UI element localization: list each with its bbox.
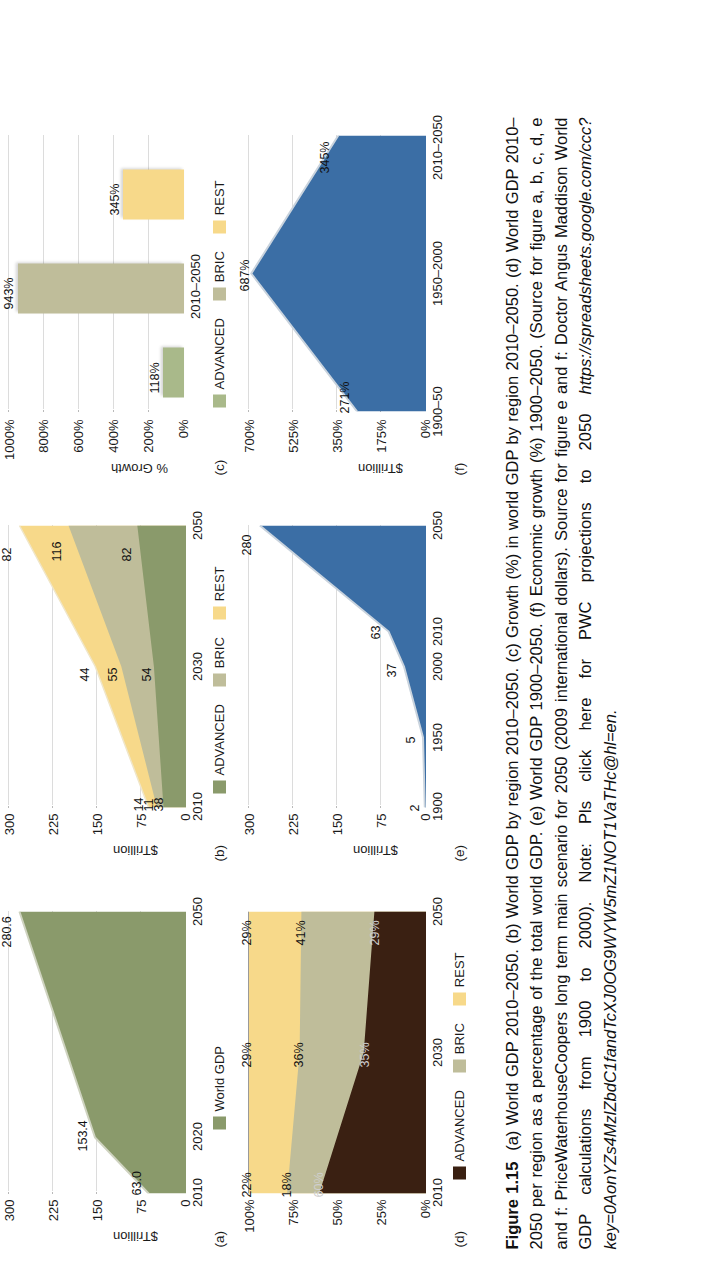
panel-e-xtick-2010: 2010 — [430, 608, 445, 654]
panel-b-label-advanced-2050: 82 — [120, 547, 134, 561]
panel-c-bar-rest — [123, 169, 184, 219]
panel-f-xtick-2010-2050: 2010–2050 — [430, 109, 445, 185]
panel-e-plot: 2 5 37 63 280 — [248, 525, 426, 807]
panel-b-xtick-2030: 2030 — [190, 643, 205, 689]
panel-e: $Trillion 300 225 150 75 0 2 5 37 63 280 — [248, 511, 478, 863]
legend-swatch-bric — [213, 673, 226, 686]
panel-d-id: (d) — [452, 1231, 467, 1248]
panel-e-id: (e) — [452, 845, 467, 862]
legend-swatch-rest-d — [453, 992, 466, 1005]
panel-c-xtick: 2010–2050 — [188, 231, 203, 341]
legend-label-advanced-c: ADVANCED — [212, 318, 227, 389]
panel-d-ytick-50: 50% — [330, 1199, 345, 1249]
panel-f-area — [248, 135, 426, 411]
panel-f-id: (f) — [452, 462, 467, 475]
panel-c-ytick-0: 0% — [176, 419, 191, 467]
panel-c-label-rest: 345% — [108, 183, 122, 215]
panel-b-id: (b) — [212, 845, 227, 862]
figure-1-15: $Trillion 300 225 150 75 0 63.0 153.4 28… — [8, 119, 478, 1249]
panel-f-xtick-1950-2000: 1950–2000 — [430, 235, 445, 311]
panel-c-ytick-400: 400% — [106, 419, 121, 467]
panel-c-legend: ADVANCED BRIC REST — [212, 167, 227, 407]
panel-d-label-bric-2030: 36% — [292, 1042, 306, 1067]
panel-a-ytick-75: 75 — [134, 1199, 149, 1233]
panel-a-plot: 63.0 153.4 280.6 — [8, 911, 186, 1193]
panel-b-legend: ADVANCED BRIC REST — [212, 553, 227, 793]
panel-b-label-rest-2050: 82 — [0, 547, 14, 561]
panel-b-label-bric-2030: 55 — [106, 667, 120, 681]
panel-a-xtick-2010: 2010 — [190, 1169, 205, 1215]
panel-d-label-rest-2030: 29% — [240, 1042, 254, 1067]
legend-label-bric: BRIC — [212, 637, 227, 668]
panel-f-ytick-350: 350% — [330, 419, 345, 471]
panel-c: % Growth 1000% 800% 600% 400% 200% 0% 11… — [8, 119, 236, 477]
panel-e-label-1900: 2 — [408, 804, 422, 811]
panel-c-ytick-600: 600% — [71, 419, 86, 467]
panel-b-plot: 14 11 38 44 55 54 82 116 82 — [8, 525, 186, 807]
panel-d-label-bric-2050: 41% — [294, 920, 308, 945]
panel-f-xtick-1900-50: 1900–50 — [430, 373, 445, 449]
panel-f-ytick-525: 525% — [286, 419, 301, 471]
panel-b-stacked-area — [8, 525, 186, 807]
panel-e-xtick-1950: 1950 — [430, 714, 445, 760]
panel-d-xtick-2050: 2050 — [430, 888, 445, 934]
book-page: $Trillion 300 225 150 75 0 63.0 153.4 28… — [0, 0, 718, 1271]
panel-b-ytick-75: 75 — [134, 813, 149, 847]
panel-d-xtick-2010: 2010 — [430, 1169, 445, 1215]
panel-d-ytick-100: 100% — [242, 1199, 257, 1249]
panel-a-id: (a) — [212, 1231, 227, 1248]
panel-b-label-advanced-2010: 38 — [152, 797, 166, 811]
legend-label-rest-c: REST — [212, 180, 227, 215]
panel-e-ytick-300: 300 — [242, 813, 257, 847]
legend-label-bric-c: BRIC — [212, 251, 227, 282]
panel-e-ytick-75: 75 — [374, 813, 389, 847]
legend-label-rest: REST — [212, 566, 227, 601]
panel-d-plot: 22% 18% 60% 29% 36% 35% 29% 41% 29% — [248, 911, 426, 1193]
panel-e-ytick-150: 150 — [330, 813, 345, 847]
panel-c-id: (c) — [212, 459, 227, 475]
panel-b-label-advanced-2030: 54 — [140, 667, 154, 681]
panel-b-ytick-150: 150 — [90, 813, 105, 847]
legend-label-bric-d: BRIC — [452, 1023, 467, 1054]
panel-b-xtick-2010: 2010 — [190, 783, 205, 829]
panel-b-xtick-2050: 2050 — [190, 502, 205, 548]
panel-d-label-advanced-2050: 29% — [368, 920, 382, 945]
legend-swatch-advanced-c — [213, 394, 226, 407]
panel-d-label-rest-2050: 29% — [240, 920, 254, 945]
legend-label-rest-d: REST — [452, 952, 467, 987]
panel-f-ytick-175: 175% — [374, 419, 389, 471]
panel-e-xtick-1900: 1900 — [430, 783, 445, 829]
panel-c-ytick-1000: 1000% — [2, 419, 17, 467]
panel-a-xtick-2020: 2020 — [190, 1113, 205, 1159]
panel-d-label-bric-2010: 18% — [280, 1172, 294, 1197]
panel-b-label-bric-2050: 116 — [50, 541, 64, 561]
panel-b-ytick-225: 225 — [46, 813, 61, 847]
panel-b-ytick-300: 300 — [2, 813, 17, 847]
panel-c-ytick-800: 800% — [36, 419, 51, 467]
legend-label-world-gdp: World GDP — [212, 1046, 227, 1112]
panel-f-ytick-700: 700% — [242, 419, 257, 471]
panel-d: 100% 75% 50% 25% 0% 22% 18% 60% 29% — [248, 897, 478, 1249]
panel-d-xtick-2030: 2030 — [430, 1029, 445, 1075]
figure-caption: Figure 1.15 (a) World GDP 2010–2050. (b)… — [500, 117, 622, 1249]
panel-c-label-advanced: 118% — [148, 362, 162, 393]
caption-label: Figure 1.15 — [503, 1161, 521, 1249]
panel-f: $Trillion 700% 525% 350% 175% 0% 271% 68… — [248, 119, 478, 477]
panel-e-area — [248, 525, 426, 807]
panel-c-plot: 118% 943% 345% — [8, 135, 184, 411]
panel-a-ytick-150: 150 — [90, 1199, 105, 1233]
panel-d-label-advanced-2010: 60% — [312, 1172, 326, 1197]
legend-swatch-bric-c — [213, 287, 226, 300]
panel-a-ytick-225: 225 — [46, 1199, 61, 1233]
panel-e-xtick-2050: 2050 — [430, 502, 445, 548]
panel-d-legend: ADVANCED BRIC REST — [452, 939, 467, 1179]
panel-a-ytick-300: 300 — [2, 1199, 17, 1233]
panel-d-stacked-area — [248, 911, 426, 1193]
legend-swatch-advanced — [213, 780, 226, 793]
panel-c-ytick-200: 200% — [141, 419, 156, 467]
panel-a-xtick-2050: 2050 — [190, 888, 205, 934]
panel-d-label-advanced-2030: 35% — [358, 1042, 372, 1067]
panel-a-area — [8, 911, 186, 1193]
panel-b-label-rest-2030: 44 — [78, 667, 92, 681]
panel-a: $Trillion 300 225 150 75 0 63.0 153.4 28… — [8, 897, 236, 1249]
